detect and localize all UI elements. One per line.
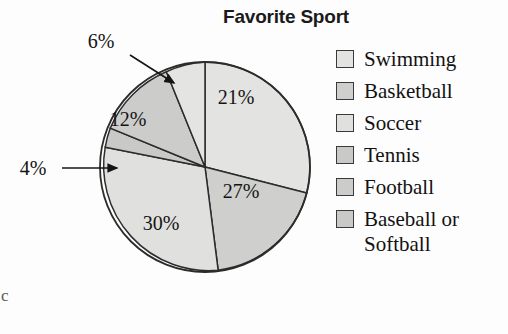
pie-chart-figure: Favorite Sport 21% 27% 30% 12% bbox=[0, 0, 508, 334]
legend-swatch-soccer bbox=[336, 114, 354, 132]
legend-label-basketball: Basketball bbox=[364, 79, 453, 104]
legend-item-tennis[interactable]: Tennis bbox=[336, 143, 506, 168]
legend-swatch-football bbox=[336, 178, 354, 196]
legend-swatch-basketball bbox=[336, 82, 354, 100]
legend-swatch-baseball-softball bbox=[336, 210, 354, 228]
legend: Swimming Basketball Soccer Tennis Footba… bbox=[336, 47, 506, 264]
pie-label-swimming: 21% bbox=[218, 86, 255, 108]
legend-label-football: Football bbox=[364, 175, 434, 200]
pie-callout-tennis: 4% bbox=[20, 157, 47, 179]
pie-callout-baseball-softball: 6% bbox=[88, 30, 115, 52]
legend-label-soccer: Soccer bbox=[364, 111, 421, 136]
pie-label-basketball: 27% bbox=[223, 180, 260, 202]
pie-label-football: 12% bbox=[110, 108, 147, 130]
pie-label-soccer: 30% bbox=[143, 212, 180, 234]
legend-swatch-swimming bbox=[336, 50, 354, 68]
legend-item-baseball-softball[interactable]: Baseball or Softball bbox=[336, 207, 506, 257]
legend-item-swimming[interactable]: Swimming bbox=[336, 47, 506, 72]
legend-label-tennis: Tennis bbox=[364, 143, 420, 168]
legend-swatch-tennis bbox=[336, 146, 354, 164]
legend-item-basketball[interactable]: Basketball bbox=[336, 79, 506, 104]
legend-item-football[interactable]: Football bbox=[336, 175, 506, 200]
scan-edge-artifact: c bbox=[1, 286, 9, 306]
legend-label-swimming: Swimming bbox=[364, 47, 456, 72]
legend-item-soccer[interactable]: Soccer bbox=[336, 111, 506, 136]
legend-label-baseball-softball: Baseball or Softball bbox=[364, 207, 459, 257]
